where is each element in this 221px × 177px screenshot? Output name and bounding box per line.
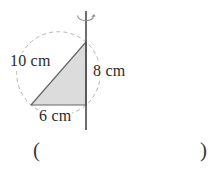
side-label-vertical: 8 cm (92, 63, 126, 79)
side-label-hypotenuse: 10 cm (9, 53, 52, 69)
answer-paren-close: ) (200, 140, 207, 161)
side-label-base: 6 cm (38, 108, 72, 124)
figure-canvas: 10 cm 8 cm 6 cm ( ) (0, 0, 221, 177)
answer-paren-open: ( (33, 140, 40, 161)
